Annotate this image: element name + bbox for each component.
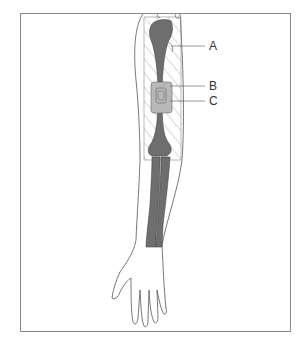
arm-diagram [0, 0, 306, 343]
label-a: A [209, 40, 217, 52]
implant-device [151, 82, 172, 113]
label-b: B [209, 80, 217, 92]
label-c: C [209, 95, 218, 107]
